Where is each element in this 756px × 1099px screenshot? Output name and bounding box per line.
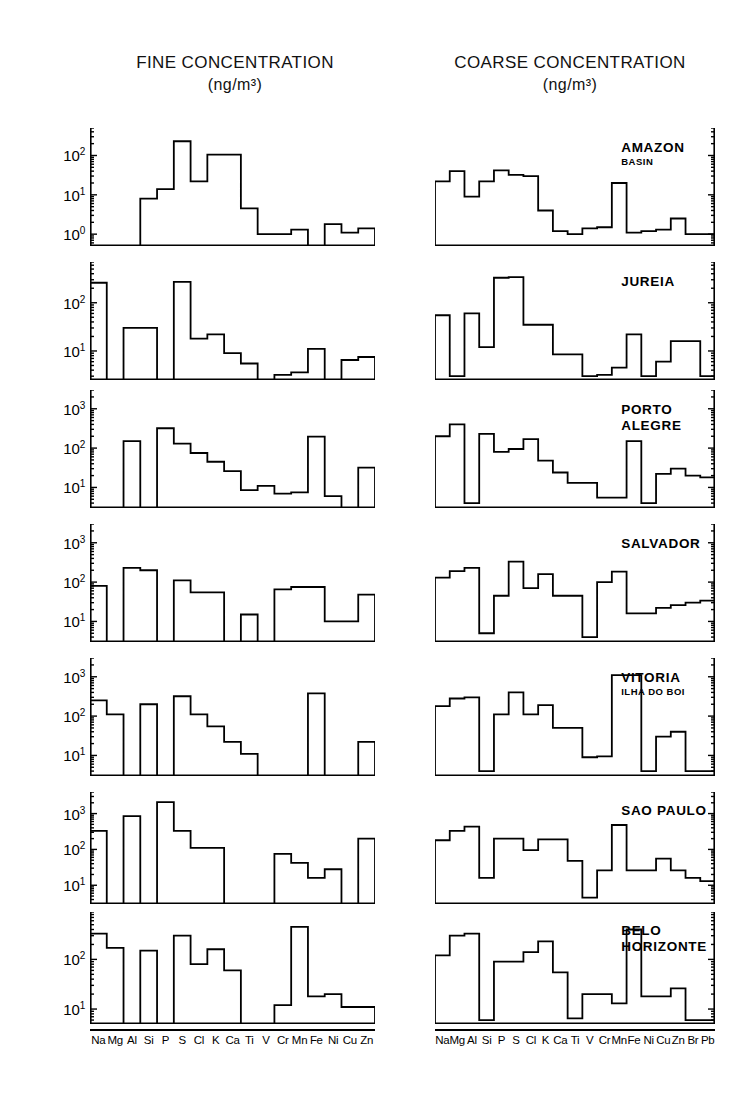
axis-label-mg: Mg	[449, 1034, 464, 1046]
y-tick-label-row-5-2: 102	[63, 707, 85, 725]
panel-coarse-row-5: VITORIAILHA DO BOI	[435, 658, 715, 776]
panel-fine-row-3: 101102103	[90, 390, 375, 508]
coarse-title-text: COARSE CONCENTRATION	[454, 53, 686, 72]
histogram-trace-coarse-3	[435, 424, 715, 508]
y-tick-label-row-2-2: 102	[63, 293, 85, 311]
y-tick-label-row-6-1: 101	[63, 876, 85, 894]
histogram-trace-fine-4	[90, 568, 375, 642]
y-tick-label-row-2-1: 101	[63, 342, 85, 360]
histogram-trace-fine-3	[124, 428, 375, 508]
site-label-3: PORTOALEGRE	[621, 402, 681, 434]
y-tick-label-row-7-2: 102	[63, 950, 85, 968]
site-name: JUREIA	[621, 274, 675, 289]
fine-title-unit: (ng/m³)	[95, 74, 375, 95]
axis-label-p: P	[498, 1034, 505, 1046]
histogram-trace-coarse-4	[435, 562, 715, 642]
histogram-trace-coarse-1	[435, 170, 715, 246]
axis-labels-fine-rule	[90, 1029, 375, 1031]
axis-label-v: V	[262, 1034, 269, 1046]
axis-label-si: Si	[482, 1034, 492, 1046]
site-name-second-line: ALEGRE	[621, 418, 681, 434]
panel-fine-row-7: 101102	[90, 912, 375, 1024]
y-tick-label-row-6-2: 102	[63, 840, 85, 858]
axis-label-ni: Ni	[644, 1034, 654, 1046]
panel-fine-row-2: 101102	[90, 262, 375, 380]
histogram-trace-fine-7	[90, 927, 375, 1024]
axis-label-fe: Fe	[628, 1034, 641, 1046]
axis-label-zn: Zn	[672, 1034, 685, 1046]
axis-label-s: S	[179, 1034, 186, 1046]
plot-area-fine-1	[90, 128, 375, 246]
axis-label-na: Na	[435, 1034, 449, 1046]
y-tick-label-row-3-3: 103	[63, 399, 85, 417]
axis-label-cu: Cu	[656, 1034, 670, 1046]
axis-label-cl: Cl	[526, 1034, 536, 1046]
axis-label-na: Na	[91, 1034, 105, 1046]
site-name: VITORIA	[621, 670, 680, 685]
y-tick-label-row-3-2: 102	[63, 439, 85, 457]
axis-label-mn: Mn	[612, 1034, 627, 1046]
site-label-7: BELOHORIZONTE	[621, 923, 707, 955]
coarse-title-unit: (ng/m³)	[420, 74, 720, 95]
axis-label-al: Al	[127, 1034, 137, 1046]
histogram-trace-fine-6	[90, 802, 375, 904]
site-name: SALVADOR	[621, 536, 700, 551]
axis-label-cr: Cr	[277, 1034, 289, 1046]
panel-fine-row-1: 100101102	[90, 128, 375, 246]
axis-label-pb: Pb	[701, 1034, 714, 1046]
axis-label-ca: Ca	[225, 1034, 239, 1046]
axis-label-al: Al	[467, 1034, 477, 1046]
axis-label-br: Br	[687, 1034, 698, 1046]
panel-coarse-row-6: SAO PAULO	[435, 792, 715, 904]
axis-labels-coarse: NaMgAlSiPSClKCaTiVCrMnFeNiCuZnBrPb	[435, 1034, 715, 1052]
panel-fine-row-6: 101102103	[90, 792, 375, 904]
y-tick-label-row-1-2: 101	[63, 185, 85, 203]
y-tick-label-row-7-1: 101	[63, 1000, 85, 1018]
axis-label-cu: Cu	[343, 1034, 357, 1046]
axis-label-ni: Ni	[328, 1034, 338, 1046]
axis-label-si: Si	[144, 1034, 154, 1046]
site-name-second-line: ILHA DO BOI	[621, 686, 685, 697]
panel-coarse-row-4: SALVADOR	[435, 524, 715, 642]
histogram-trace-coarse-6	[435, 825, 715, 904]
histogram-trace-coarse-2	[435, 277, 715, 380]
axis-label-s: S	[512, 1034, 519, 1046]
y-tick-label-row-5-3: 103	[63, 667, 85, 685]
y-tick-label-row-4-3: 103	[63, 533, 85, 551]
histogram-trace-fine-2	[90, 282, 375, 380]
site-name-second-line: HORIZONTE	[621, 939, 707, 955]
plot-area-fine-5	[90, 658, 375, 776]
figure-root: FINE CONCENTRATION (ng/m³) COARSE CONCEN…	[0, 0, 756, 1099]
site-name: AMAZON	[621, 140, 684, 155]
y-tick-label-row-1-3: 102	[63, 146, 85, 164]
plot-area-fine-6	[90, 792, 375, 904]
y-tick-label-row-6-3: 103	[63, 804, 85, 822]
plot-area-fine-3	[90, 390, 375, 508]
site-name: SAO PAULO	[621, 803, 707, 818]
axis-label-cl: Cl	[194, 1034, 204, 1046]
site-label-1: AMAZONBASIN	[621, 140, 684, 167]
panel-coarse-row-1: AMAZONBASIN	[435, 128, 715, 246]
y-tick-label-row-4-1: 101	[63, 612, 85, 630]
panel-coarse-row-7: BELOHORIZONTE	[435, 912, 715, 1024]
axis-label-v: V	[586, 1034, 593, 1046]
axis-label-mn: Mn	[292, 1034, 307, 1046]
histogram-trace-fine-1	[140, 141, 375, 246]
panel-coarse-row-3: PORTOALEGRE	[435, 390, 715, 508]
histogram-trace-fine-5	[90, 693, 375, 776]
plot-area-fine-2	[90, 262, 375, 380]
axis-label-k: K	[542, 1034, 549, 1046]
site-label-4: SALVADOR	[621, 536, 700, 552]
axis-label-p: P	[162, 1034, 169, 1046]
axis-label-zn: Zn	[360, 1034, 373, 1046]
y-tick-label-row-5-1: 101	[63, 746, 85, 764]
axis-label-ti: Ti	[245, 1034, 254, 1046]
site-name-second-line: BASIN	[621, 156, 684, 167]
site-name: PORTO	[621, 402, 672, 417]
axis-label-ti: Ti	[571, 1034, 580, 1046]
site-label-2: JUREIA	[621, 274, 675, 290]
plot-area-fine-4	[90, 524, 375, 642]
axis-label-mg: Mg	[107, 1034, 122, 1046]
site-label-5: VITORIAILHA DO BOI	[621, 670, 685, 697]
panel-fine-row-5: 101102103	[90, 658, 375, 776]
